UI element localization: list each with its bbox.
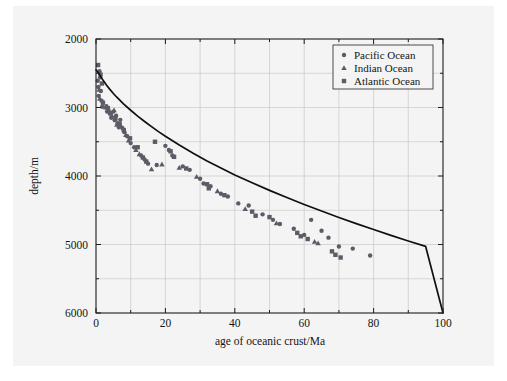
legend-label: Indian Ocean xyxy=(354,62,413,74)
legend-marker-circle xyxy=(342,53,346,57)
data-point xyxy=(118,118,122,122)
data-point xyxy=(292,227,296,231)
data-point xyxy=(236,201,240,205)
y-tick-label: 3000 xyxy=(65,102,88,114)
data-point xyxy=(309,218,313,222)
data-point xyxy=(368,253,372,257)
data-point xyxy=(113,116,117,120)
data-point xyxy=(159,162,165,167)
legend-label: Atlantic Ocean xyxy=(354,75,421,87)
data-point xyxy=(267,215,271,219)
data-point xyxy=(260,212,264,216)
y-tick-label: 2000 xyxy=(65,33,88,45)
x-tick-label: 80 xyxy=(368,317,380,329)
data-point xyxy=(338,255,342,259)
legend-marker-square xyxy=(342,79,346,83)
data-point xyxy=(319,229,323,233)
legend-label: Pacific Ocean xyxy=(354,49,416,61)
data-point xyxy=(351,246,355,250)
data-point xyxy=(253,214,257,218)
x-tick-label: 100 xyxy=(434,317,452,329)
scatter-chart: 02040608010020003000400050006000 age of … xyxy=(0,0,507,381)
series-pacific-ocean xyxy=(96,69,373,258)
chart-legend: Pacific OceanIndian OceanAtlantic Ocean xyxy=(333,45,433,89)
data-point xyxy=(305,237,309,241)
x-tick-label: 0 xyxy=(93,317,99,329)
data-point xyxy=(153,140,157,144)
data-point xyxy=(122,128,126,132)
y-tick-label: 5000 xyxy=(65,239,88,251)
x-tick-label: 20 xyxy=(160,317,172,329)
data-point xyxy=(135,145,139,149)
data-point xyxy=(108,111,112,115)
data-point xyxy=(205,182,209,186)
data-point xyxy=(163,144,167,148)
data-point xyxy=(101,101,105,105)
x-tick-label: 40 xyxy=(229,317,241,329)
data-point xyxy=(184,166,188,170)
y-tick-label: 6000 xyxy=(65,307,88,319)
series-atlantic-ocean xyxy=(96,63,343,260)
data-point xyxy=(172,155,176,159)
data-point xyxy=(222,193,226,197)
data-point xyxy=(250,209,254,213)
chart-container: 02040608010020003000400050006000 age of … xyxy=(0,0,507,381)
data-point xyxy=(326,235,330,239)
data-point xyxy=(117,122,121,126)
data-point xyxy=(337,244,341,248)
data-point xyxy=(106,106,110,110)
data-point xyxy=(299,234,303,238)
data-point xyxy=(141,155,145,159)
y-axis-title: depth/m xyxy=(28,157,41,195)
data-point xyxy=(155,163,159,167)
data-point xyxy=(207,186,211,190)
data-point xyxy=(144,159,148,163)
data-point xyxy=(333,253,337,257)
data-point xyxy=(128,136,132,140)
y-tick-label: 4000 xyxy=(65,170,88,182)
data-point xyxy=(246,203,250,207)
x-tick-label: 60 xyxy=(298,317,310,329)
data-points-layer xyxy=(96,63,373,260)
data-point xyxy=(168,149,172,153)
data-point xyxy=(215,188,221,193)
x-axis-title: age of oceanic crust/Ma xyxy=(215,335,325,348)
data-point xyxy=(149,166,155,171)
